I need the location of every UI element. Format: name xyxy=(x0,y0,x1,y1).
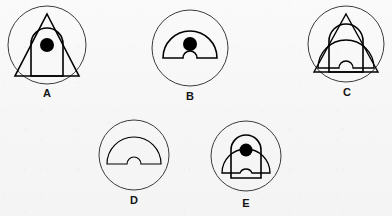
figure-label-e: E xyxy=(208,197,284,209)
figure-e[interactable]: E xyxy=(208,117,284,215)
figure-panel: A B C D E xyxy=(0,0,392,216)
center-dot-a xyxy=(40,38,54,52)
figure-c[interactable]: C xyxy=(306,0,388,104)
arch-c xyxy=(329,24,363,72)
figure-e-drawing xyxy=(208,117,284,197)
center-dot-e xyxy=(240,144,253,157)
figure-d-drawing xyxy=(96,116,172,194)
outer-circle-d xyxy=(99,120,169,190)
figure-label-a: A xyxy=(0,87,94,99)
figure-label-b: B xyxy=(150,90,230,102)
figure-a[interactable]: A xyxy=(0,0,94,104)
triangle-c xyxy=(314,14,378,72)
dome-notch-d xyxy=(107,137,161,164)
figure-label-d: D xyxy=(96,194,172,206)
figure-d[interactable]: D xyxy=(96,116,172,214)
dome-notch-c xyxy=(318,40,374,68)
figure-b[interactable]: B xyxy=(150,4,230,108)
outer-circle-c xyxy=(308,6,384,82)
center-dot-b xyxy=(183,37,197,51)
figure-label-c: C xyxy=(306,86,388,98)
